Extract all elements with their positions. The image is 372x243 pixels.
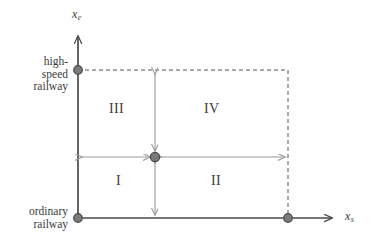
nodes [74,66,293,223]
y-tick-ordinary-line2: railway [6,218,68,231]
node-x-axis-point [284,214,293,223]
axes [78,36,332,218]
y-tick-high-speed-line1: high- [6,55,68,68]
center-arrows [82,74,285,215]
x-axis-label-base: x [345,209,350,223]
y-tick-high-speed-line3: railway [6,80,68,93]
y-axis-label: xe [72,8,81,21]
quadrant-diagram: xe xs high- speed railway ordinary railw… [0,0,372,243]
y-tick-high-speed-line2: speed [6,68,68,81]
quadrant-label-iv: IV [204,101,220,117]
node-center [150,152,159,161]
y-tick-label-ordinary-railway: ordinary railway [6,205,68,230]
dashed-boundary [78,70,288,218]
x-axis-label: xs [345,210,353,223]
quadrant-label-iii: III [109,101,124,117]
quadrant-label-ii: II [211,173,221,189]
quadrant-label-i: I [116,173,121,189]
node-origin [74,214,83,223]
y-tick-ordinary-line1: ordinary [6,205,68,218]
node-high-speed-axis-point [74,66,83,75]
x-axis-label-subscript: s [351,215,354,224]
y-tick-label-high-speed-railway: high- speed railway [6,55,68,93]
y-axis-label-subscript: e [78,13,82,22]
y-axis-label-base: x [72,7,77,21]
